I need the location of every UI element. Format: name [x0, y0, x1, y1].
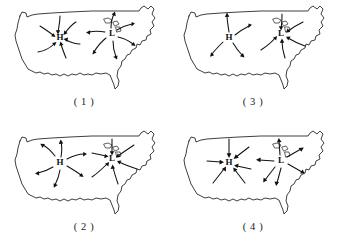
us-outline: [15, 131, 155, 214]
arrow-head: [59, 140, 64, 145]
arrow-head: [64, 38, 69, 43]
panel-2-caption: ( 2 ): [0, 221, 168, 232]
arrow-head: [274, 182, 279, 186]
arrow-head: [219, 160, 224, 165]
panel-4: H L: [169, 125, 337, 250]
arrow-head: [256, 158, 261, 163]
arrow-head: [104, 154, 108, 158]
high-pressure-center-1: H: [38, 16, 80, 58]
low-pressure-center-3: L: [261, 14, 305, 58]
high-pressure-center-4: H: [207, 139, 251, 183]
panel-1-caption: ( 1 ): [0, 96, 168, 107]
panel-4-caption: ( 4 ): [169, 221, 337, 232]
low-pressure-center-4: L: [256, 138, 305, 186]
us-outline: [15, 6, 155, 89]
arrow-head: [83, 152, 87, 157]
panel-3-caption: ( 3 ): [169, 96, 337, 107]
high-label: H: [225, 32, 232, 42]
arrow-head: [234, 164, 239, 169]
arrow-head: [111, 165, 115, 170]
arrow-head: [86, 30, 90, 35]
high-label: H: [225, 157, 232, 167]
panel-1: H L: [0, 0, 168, 125]
high-label: H: [56, 157, 63, 167]
arrow-head: [280, 39, 285, 43]
arrow-head: [59, 42, 63, 46]
arrow-head: [248, 24, 252, 29]
arrow-head: [233, 168, 237, 173]
high-pressure-center-3: H: [210, 13, 252, 58]
low-label: L: [278, 155, 284, 165]
pressure-circulation-figure: H L: [0, 0, 337, 250]
arrow-head: [277, 138, 282, 142]
low-pressure-center-2: L: [92, 139, 137, 184]
us-outline: [184, 6, 324, 89]
panel-2: H L: [0, 125, 168, 250]
arrow-head: [35, 171, 39, 176]
low-pressure-center-1: L: [86, 12, 136, 60]
arrow-head: [131, 22, 135, 26]
panel-3: H L: [169, 0, 337, 125]
arrow-head: [210, 52, 214, 57]
low-label: L: [109, 28, 115, 38]
high-pressure-center-2: H: [35, 140, 87, 188]
